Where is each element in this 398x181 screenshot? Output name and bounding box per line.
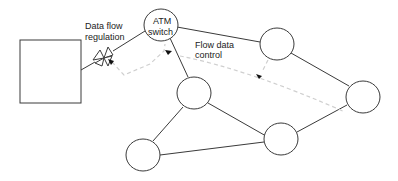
flow-regulator-icon xyxy=(93,47,113,66)
link-middle-bottomleft xyxy=(153,107,183,141)
link-host-regulator xyxy=(81,62,95,70)
arrow-icon xyxy=(165,50,172,55)
node-far-right xyxy=(346,81,380,113)
atm-switch-label-line1: ATM xyxy=(153,16,171,26)
node-bottom-center xyxy=(264,123,298,155)
link-middle-bottomcenter xyxy=(208,103,266,136)
link-atm-middle xyxy=(170,38,188,77)
regulation-label-line2: regulation xyxy=(85,32,125,42)
arrow-heads xyxy=(108,50,262,79)
atm-switch-label-line2: switch xyxy=(148,27,173,37)
flow-control-label-line1: Flow data xyxy=(195,40,234,50)
node-bottom-left xyxy=(126,139,160,171)
network-diagram xyxy=(0,0,398,181)
feedback-paths xyxy=(112,44,345,112)
dashed-path-topright xyxy=(262,60,268,72)
flow-control-label-line2: control xyxy=(195,50,222,60)
link-bottomleft-bottomcenter xyxy=(160,142,264,155)
dashed-path-left xyxy=(112,44,165,75)
host-box xyxy=(20,40,81,103)
node-middle xyxy=(177,77,211,109)
node-top-right xyxy=(260,28,294,60)
regulation-label-line1: Data flow xyxy=(85,21,123,31)
link-topright-farright xyxy=(291,53,349,86)
